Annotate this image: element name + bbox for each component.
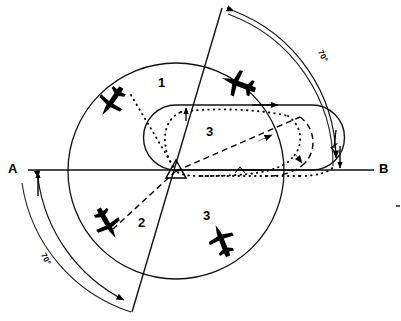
holding-pattern-diagram bbox=[0, 0, 401, 321]
outer-arc-bottom-left bbox=[38, 178, 124, 300]
sector-label-1: 1 bbox=[158, 76, 165, 89]
holding-pattern-track bbox=[144, 105, 345, 170]
endpoint-label-b: B bbox=[379, 162, 388, 175]
bearing-line-70 bbox=[132, 8, 222, 312]
sector-label-3-upper: 3 bbox=[206, 125, 213, 138]
stray-mark bbox=[396, 205, 400, 207]
endpoint-label-a: A bbox=[8, 162, 17, 175]
aircraft-sector-3-upper bbox=[218, 65, 260, 102]
aircraft-sector-3-lower bbox=[204, 220, 240, 261]
aircraft-sector-1 bbox=[92, 80, 132, 122]
arrow-teardrop-outbound bbox=[258, 135, 272, 141]
sector-label-3-lower: 3 bbox=[203, 209, 210, 222]
sector-label-2: 2 bbox=[138, 216, 145, 229]
aircraft-sector-2 bbox=[88, 202, 127, 244]
diagram-canvas: A B 1 2 3 3 70° 70° bbox=[0, 0, 401, 321]
arrow-teardrop-turn bbox=[296, 155, 302, 163]
